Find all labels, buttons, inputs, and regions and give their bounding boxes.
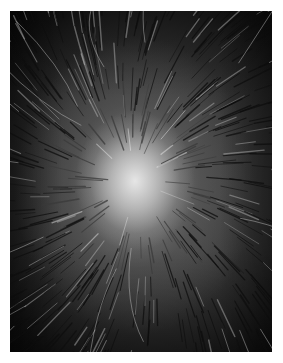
hair-strands	[10, 11, 272, 352]
scalp-photo	[10, 11, 272, 352]
